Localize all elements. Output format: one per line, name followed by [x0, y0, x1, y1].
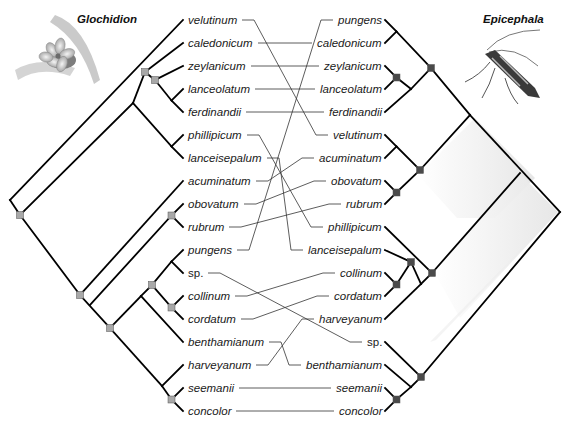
right-taxon-label: concolor: [339, 404, 382, 418]
left-taxon-label: velutinum: [188, 13, 237, 27]
left-taxon-label: concolor: [188, 404, 231, 418]
left-taxon-label: collinum: [188, 289, 230, 303]
right-taxon-label: obovatum: [331, 174, 382, 188]
left-taxon-label: harveyanum: [188, 358, 251, 372]
flower-illustration: [15, 15, 100, 84]
right-taxon-label: seemanii: [336, 381, 382, 395]
left-genus-title: Glochidion: [77, 13, 137, 25]
right-taxon-label: acuminatum: [319, 151, 382, 165]
right-taxon-label: lanceisepalum: [308, 243, 382, 257]
right-taxon-label: harveyanum: [319, 312, 382, 326]
right-taxon-label: benthamianum: [306, 358, 382, 372]
moth-illustration: [465, 30, 540, 104]
right-taxon-label: phillipicum: [328, 220, 382, 234]
left-taxon-label: benthamianum: [188, 335, 264, 349]
left-taxon-label: cordatum: [188, 312, 236, 326]
right-taxon-label: velutinum: [333, 128, 382, 142]
association-links: [208, 20, 362, 411]
right-shaded-region: [418, 118, 558, 342]
left-taxon-label: rubrum: [188, 220, 224, 234]
left-taxon-label: caledonicum: [188, 36, 253, 50]
right-genus-title: Epicephala: [483, 13, 544, 25]
right-taxon-label: collinum: [340, 266, 382, 280]
tanglegram-figure: Glochidion Epicephala velutinumcaledonic…: [0, 0, 570, 424]
left-taxon-label: ferdinandii: [188, 105, 241, 119]
left-taxon-label: pungens: [188, 243, 232, 257]
tree-canvas: [0, 0, 570, 424]
right-taxon-label: cordatum: [334, 289, 382, 303]
right-taxon-label: lanceolatum: [320, 82, 382, 96]
left-taxon-label: sp.: [188, 266, 203, 280]
left-taxon-label: zeylanicum: [188, 59, 246, 73]
right-taxon-label: pungens: [338, 13, 382, 27]
left-taxon-label: seemanii: [188, 381, 234, 395]
left-taxon-label: acuminatum: [188, 174, 251, 188]
left-taxon-label: lanceolatum: [188, 82, 250, 96]
right-taxon-label: caledonicum: [317, 36, 382, 50]
right-taxon-label: rubrum: [346, 197, 382, 211]
left-taxon-label: lanceisepalum: [188, 151, 262, 165]
right-taxon-label: ferdinandii: [329, 105, 382, 119]
left-taxon-label: obovatum: [188, 197, 239, 211]
right-taxon-label: zeylanicum: [324, 59, 382, 73]
left-taxon-label: phillipicum: [188, 128, 242, 142]
right-taxon-label: sp.: [367, 335, 382, 349]
